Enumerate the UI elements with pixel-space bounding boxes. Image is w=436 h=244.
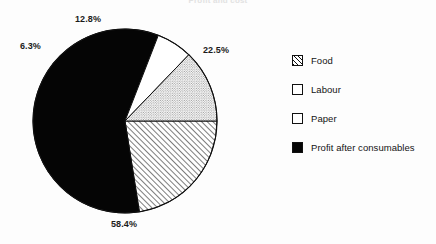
chart-legend: Food Labour Paper Profit after consumabl… [292,55,436,153]
legend-swatch-dots-icon [292,84,303,95]
legend-swatch-white-icon [292,113,303,124]
legend-label-labour: Labour [311,84,341,95]
legend-swatch-black-icon [292,142,303,153]
pie-label-food: 22.5% [203,45,229,55]
legend-item-profit-after-consumables[interactable]: Profit after consumables [292,142,436,153]
legend-item-labour[interactable]: Labour [292,84,436,95]
legend-swatch-hatch-icon [292,55,303,66]
legend-item-food[interactable]: Food [292,55,436,66]
legend-label-paper: Paper [311,113,337,124]
pie-label-paper: 6.3% [20,41,41,51]
pie-label-labour: 12.8% [75,14,101,24]
pie-slice-food[interactable] [125,121,217,212]
legend-label-food: Food [311,55,333,66]
pie-label-profit-after-consumables: 58.4% [111,219,137,229]
legend-label-profit-after-consumables: Profit after consumables [311,142,415,153]
chart-canvas: Profit and cost 22.5% 12.8% 6.3% 58.4% [0,0,436,244]
legend-item-paper[interactable]: Paper [292,113,436,124]
